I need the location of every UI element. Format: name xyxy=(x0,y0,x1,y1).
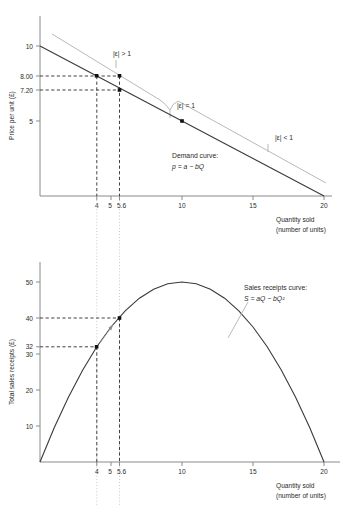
y-tick-label-10: 10 xyxy=(26,423,34,430)
sales-curve-caption-line2: S = aQ − bQ² xyxy=(244,295,285,303)
demand-curve-caption-line1: Demand curve: xyxy=(172,152,218,159)
sales-receipts-svg: 50 40 32 30 20 10 Total sales receipts (… xyxy=(0,250,358,507)
x-tick-label-15: 15 xyxy=(249,202,257,209)
sales-receipts-chart: 50 40 32 30 20 10 Total sales receipts (… xyxy=(0,250,358,507)
x-tick-label-10-bottom: 10 xyxy=(178,468,186,475)
x-tick-label-15-bottom: 15 xyxy=(249,468,257,475)
y-tick-label-40: 40 xyxy=(26,315,34,322)
demand-curve-chart: 10 8.00 7.20 5 Price per unit (£) 4 5 5.… xyxy=(0,0,358,250)
y-tick-label-10: 10 xyxy=(26,43,34,50)
data-point-5p6-40 xyxy=(118,316,122,320)
annotation-inelastic: |ε| < 1 xyxy=(275,134,293,142)
data-point-5p6-7p2 xyxy=(118,88,122,92)
x-tick-label-5-bottom: 5 xyxy=(108,468,112,475)
x-tick-label-4-bottom: 4 xyxy=(95,468,99,475)
y-tick-label-50: 50 xyxy=(26,279,34,286)
data-point-4-32 xyxy=(95,345,99,349)
annotation-elastic: |ε| > 1 xyxy=(113,50,131,58)
x-axis-title-line1-bottom: Quantity sold xyxy=(276,482,315,490)
y-tick-label-800: 8.00 xyxy=(20,73,33,80)
demand-curve-caption-line2: p = a − bQ xyxy=(171,163,205,171)
x-axis-title-line2-bottom: (number of units) xyxy=(276,492,326,500)
data-point-5p6-8 xyxy=(118,74,122,78)
x-axis-title-line2: (number of units) xyxy=(276,226,326,234)
y-tick-label-720: 7.20 xyxy=(20,87,33,94)
x-axis-title-line1: Quantity sold xyxy=(276,216,315,224)
economics-figure: 10 8.00 7.20 5 Price per unit (£) 4 5 5.… xyxy=(0,0,358,507)
x-tick-label-4: 4 xyxy=(95,202,99,209)
annotation-unit-elastic: |ε| = 1 xyxy=(177,102,195,110)
y-tick-label-30: 30 xyxy=(26,351,34,358)
y-axis-title: Price per unit (£) xyxy=(8,91,16,140)
x-tick-label-20: 20 xyxy=(320,202,328,209)
x-tick-label-5-6: 5.6 xyxy=(117,202,126,209)
sales-curve-caption-line1: Sales receipts curve: xyxy=(244,284,307,292)
sales-caption-leader xyxy=(228,302,248,338)
y-tick-label-20: 20 xyxy=(26,387,34,394)
y-tick-label-5: 5 xyxy=(29,118,33,125)
data-point-10-5 xyxy=(180,119,184,123)
sales-receipts-line xyxy=(40,282,324,462)
data-point-4-8 xyxy=(95,74,99,78)
x-tick-label-10: 10 xyxy=(178,202,186,209)
x-tick-label-20-bottom: 20 xyxy=(320,468,328,475)
y-axis-title-bottom: Total sales receipts (£) xyxy=(8,339,16,405)
demand-curve-svg: 10 8.00 7.20 5 Price per unit (£) 4 5 5.… xyxy=(0,0,358,250)
y-tick-label-32: 32 xyxy=(26,343,34,350)
x-tick-label-5: 5 xyxy=(108,202,112,209)
x-tick-label-5-6-bottom: 5.6 xyxy=(117,468,126,475)
